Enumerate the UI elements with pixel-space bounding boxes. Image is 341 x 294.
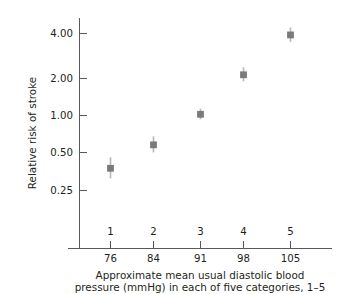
y-tick-label-0-50: 0.50 [50,147,73,158]
x-axis-caption-line-1: Approximate mean usual diastolic blood [96,269,305,281]
marker-square-category-1 [107,165,114,172]
data-point-category-3 [197,109,204,120]
marker-square-category-2 [150,141,157,148]
y-tick-label-4-00: 4.00 [50,28,73,39]
x-tick-label-91: 91 [194,253,207,264]
x-tick-label-105: 105 [281,253,300,264]
x-axis-ticks [111,241,291,249]
y-tick-label-1-00: 1.00 [50,110,73,121]
chart-figure: 4.00 2.00 1.00 0.50 0.25 Relative risk o… [0,0,341,294]
marker-square-category-3 [197,111,204,118]
x-axis-caption-line-2: pressure (mmHg) in each of five categori… [75,281,326,293]
marker-square-category-5 [287,32,294,39]
data-point-category-1 [107,157,114,178]
data-point-category-4 [240,67,247,81]
data-series-relative-risk [107,27,294,178]
data-point-category-2 [150,136,157,152]
y-tick-label-2-00: 2.00 [50,73,73,84]
relative-risk-of-stroke-scatter-plot: 4.00 2.00 1.00 0.50 0.25 Relative risk o… [0,0,341,294]
y-axis-title: Relative risk of stroke [26,77,38,189]
marker-square-category-4 [240,71,247,78]
x-tick-label-84: 84 [147,253,160,264]
category-label-5: 5 [287,226,293,237]
y-axis-tick-labels: 4.00 2.00 1.00 0.50 0.25 [50,28,73,196]
data-point-category-5 [287,27,294,41]
x-axis-tick-labels: 76 84 91 98 105 [104,253,300,264]
category-label-4: 4 [240,226,246,237]
category-label-2: 2 [150,226,156,237]
x-tick-label-76: 76 [104,253,117,264]
y-tick-label-0-25: 0.25 [50,185,73,196]
category-label-3: 3 [197,226,203,237]
y-axis-ticks [80,34,88,191]
category-label-1: 1 [107,226,113,237]
x-axis-category-labels: 1 2 3 4 5 [107,226,293,237]
x-tick-label-98: 98 [237,253,250,264]
